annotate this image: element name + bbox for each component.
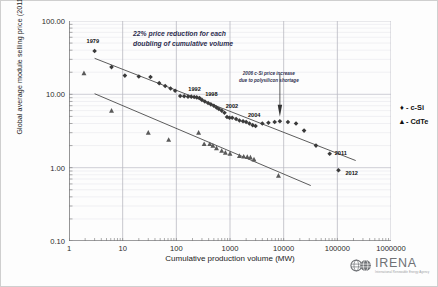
- y-tick-label: 10.00: [21, 90, 65, 99]
- x-tick-label: 1000000: [365, 244, 417, 253]
- annotation-polysilicon-shortage: 2006 c-Si price increase due to polysili…: [239, 71, 299, 85]
- annotation-polysilicon-line2: due to polysilicon shortage: [239, 78, 299, 85]
- x-tick-label: 1: [43, 244, 95, 253]
- legend-item-cdte: ▲- CdTe: [398, 115, 428, 129]
- point-label: 2004: [248, 112, 260, 118]
- y-tick-label: 100.00: [21, 17, 65, 26]
- triangle-marker-icon: ▲: [398, 115, 406, 129]
- annotation-learning-rate-line2: doubling of cumulative volume: [133, 39, 233, 49]
- point-label: 1992: [188, 86, 200, 92]
- y-tick-label: 1.00: [21, 163, 65, 172]
- point-label: 2002: [226, 103, 238, 109]
- point-label: 2011: [335, 150, 347, 156]
- annotation-learning-rate: 22% price reduction for each doubling of…: [133, 29, 233, 49]
- plot-svg: [69, 21, 391, 241]
- logo-tagline: International Renewable Energy Agency: [375, 271, 429, 274]
- annotation-polysilicon-line1: 2006 c-Si price increase: [239, 71, 299, 78]
- legend-item-c-si: ♦- c-Si: [398, 101, 428, 115]
- x-tick-label: 1000: [204, 244, 256, 253]
- point-label: 1979: [87, 38, 99, 44]
- annotation-learning-rate-line1: 22% price reduction for each: [133, 29, 233, 39]
- globe-icon: [350, 259, 372, 272]
- chart-legend: ♦- c-Si ▲- CdTe: [398, 101, 428, 128]
- diamond-marker-icon: ♦: [398, 101, 406, 115]
- plot-area: [69, 21, 391, 241]
- legend-label-c-si: - c-Si: [406, 103, 424, 112]
- chart-figure: Global average module selling price (201…: [0, 0, 438, 287]
- legend-label-cdte: - CdTe: [406, 117, 428, 126]
- irena-logo: IRENA International Renewable Energy Age…: [350, 257, 436, 273]
- x-axis-title: Cumulative production volume (MW): [69, 254, 391, 263]
- x-tick-label: 100: [150, 244, 202, 253]
- logo-text: IRENA International Renewable Energy Age…: [375, 257, 429, 273]
- point-label: 1998: [205, 91, 217, 97]
- logo-name: IRENA: [375, 257, 429, 270]
- x-tick-label: 10000: [258, 244, 310, 253]
- x-tick-label: 10: [97, 244, 149, 253]
- point-label: 2012: [345, 170, 357, 176]
- x-tick-label: 100000: [311, 244, 363, 253]
